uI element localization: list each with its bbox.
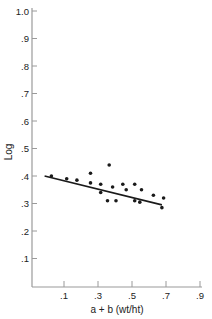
x-tick-label: .9 bbox=[196, 290, 204, 301]
data-point bbox=[162, 196, 166, 200]
y-tick-label: 1.0 bbox=[16, 6, 29, 17]
y-tick-label: .3 bbox=[21, 198, 29, 209]
data-point bbox=[114, 199, 118, 203]
y-tick-label: .1 bbox=[21, 253, 29, 264]
regression-line bbox=[45, 176, 162, 205]
data-point bbox=[107, 163, 111, 167]
data-point bbox=[111, 185, 115, 189]
data-point bbox=[99, 191, 103, 195]
y-tick-label: .8 bbox=[21, 61, 29, 72]
x-tick-label: .5 bbox=[128, 290, 136, 301]
x-tick-label: .7 bbox=[162, 290, 170, 301]
y-tick-label: .7 bbox=[21, 88, 29, 99]
y-tick-label: .2 bbox=[21, 226, 29, 237]
y-tick-label: .6 bbox=[21, 116, 29, 127]
x-tick-label: .1 bbox=[60, 290, 68, 301]
y-axis-label: Log bbox=[3, 144, 14, 161]
y-tick-label: .5 bbox=[21, 143, 29, 154]
y-tick-label: .4 bbox=[21, 171, 29, 182]
data-point bbox=[140, 188, 144, 192]
data-point bbox=[133, 182, 137, 186]
regression-line-path bbox=[45, 176, 162, 205]
data-point bbox=[99, 182, 103, 186]
x-axis-label: a + b (wt/ht) bbox=[90, 304, 143, 315]
data-point bbox=[124, 188, 128, 192]
x-axis-ticks: .1.3.5.7.9 bbox=[60, 281, 204, 301]
y-axis-ticks: .1.2.3.4.5.6.7.8.91.0 bbox=[16, 6, 37, 265]
data-point bbox=[106, 199, 110, 203]
data-point bbox=[121, 182, 125, 186]
data-point bbox=[152, 193, 156, 197]
data-point bbox=[138, 200, 142, 204]
scatter-chart: .1.2.3.4.5.6.7.8.91.0 .1.3.5.7.9 Log a +… bbox=[0, 0, 212, 319]
data-point bbox=[75, 178, 79, 182]
data-point bbox=[133, 199, 137, 203]
data-point bbox=[89, 181, 93, 185]
y-tick-label: .9 bbox=[21, 33, 29, 44]
data-point bbox=[89, 171, 93, 175]
x-tick-label: .3 bbox=[94, 290, 102, 301]
data-point bbox=[160, 206, 164, 210]
axes bbox=[32, 8, 202, 287]
data-points bbox=[50, 163, 166, 209]
data-point bbox=[65, 177, 69, 181]
